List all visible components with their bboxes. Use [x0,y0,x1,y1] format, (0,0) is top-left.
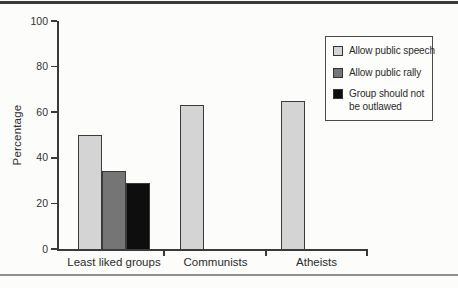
bar [281,101,305,250]
category-label: Atheists [257,256,377,268]
legend-label-line: Allow public rally [349,67,421,80]
y-axis [57,21,59,251]
legend-label-line: Group should not [349,88,424,101]
legend: Allow public speechAllow public rallyGro… [325,36,433,121]
x-tick [163,249,165,256]
x-tick [265,249,267,256]
bar [102,171,126,250]
legend-label: Allow public rally [349,67,421,80]
legend-swatch [333,46,343,56]
legend-item: Group should notbe outlawed [333,88,428,113]
legend-item: Allow public rally [333,67,428,80]
legend-swatch [333,89,343,99]
x-tick [366,249,368,256]
bar [180,105,204,250]
legend-label: Allow public speech [349,45,435,58]
legend-label-line: be outlawed [349,101,424,114]
y-axis-title: Percentage [11,105,23,166]
legend-label-line: Allow public speech [349,45,435,58]
y-tick-label: 80 [18,60,48,73]
y-tick-label: 100 [18,15,48,28]
y-tick-label: 20 [18,197,48,210]
bar [126,183,150,250]
bar [78,135,102,250]
legend-label: Group should notbe outlawed [349,88,424,113]
legend-item: Allow public speech [333,45,428,58]
figure: 020406080100Least liked groupsCommunists… [0,0,458,288]
y-tick-label: 0 [18,243,48,256]
legend-swatch [333,68,343,78]
